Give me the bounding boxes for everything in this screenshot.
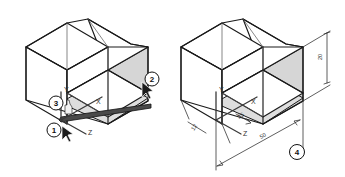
dim-depth-label: 12 [190, 123, 198, 131]
callout-2-label: 2 [150, 75, 155, 84]
axis-z-line [216, 120, 241, 134]
callout-4-label: 4 [295, 148, 300, 157]
axis-label-z: Z [88, 129, 93, 136]
callout-1-label: 1 [52, 126, 57, 135]
callout-4[interactable]: 4 [290, 145, 305, 160]
left-isometric-view: Y X Z 1 2 3 [26, 19, 159, 142]
figure-root: Y X Z 1 2 3 [0, 0, 345, 177]
callout-3-label: 3 [54, 99, 59, 108]
axis-label-x: X [96, 98, 101, 105]
dimension-height: 20 [303, 31, 330, 101]
isometric-figure-svg: Y X Z 1 2 3 [0, 0, 345, 177]
callout-3[interactable]: 3 [49, 96, 63, 110]
callout-2[interactable]: 2 [145, 72, 159, 86]
axis-label-y: Y [219, 86, 224, 93]
dim-height-label: 20 [317, 54, 323, 60]
dim-height-extension [303, 31, 330, 101]
axis-label-z: Z [243, 130, 248, 137]
arrow-cursor-1 [62, 126, 73, 142]
axis-label-y: Y [64, 86, 69, 93]
callout-1[interactable]: 1 [47, 123, 61, 137]
right-isometric-view: Y X Z 20 12 25 50 [181, 19, 330, 170]
axis-label-x: X [251, 98, 256, 105]
